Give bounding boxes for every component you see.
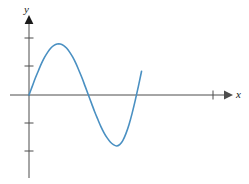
y-axis-arrowhead (25, 15, 34, 24)
x-axis-arrowhead (224, 91, 233, 100)
graph-figure: y x (0, 0, 249, 184)
y-axis-label: y (24, 4, 29, 15)
plot-canvas (0, 0, 249, 184)
x-axis-label: x (236, 89, 241, 100)
